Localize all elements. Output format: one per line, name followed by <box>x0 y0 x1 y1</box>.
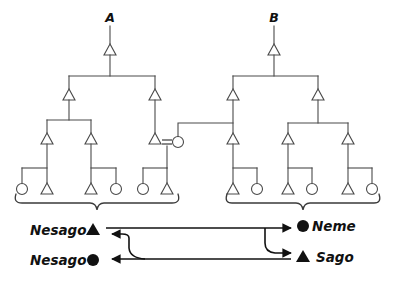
kinship-diagram-figure: A <box>0 0 396 281</box>
left-name-1-text: Nesago <box>30 222 87 238</box>
tree-b-gen2-triangle-right <box>312 89 324 100</box>
right-name-2-text: Sago <box>316 249 354 265</box>
tree-a-leaf-5-circle <box>138 184 149 195</box>
tree-a-gen3-triangle-left <box>41 133 53 144</box>
tree-b-leaf-6-circle <box>367 184 378 195</box>
tree-a: A <box>15 10 233 210</box>
tree-a-leaf-4-circle <box>111 184 122 195</box>
tree-a-label: A <box>104 10 115 25</box>
left-name-2-filled-circle-marker <box>87 254 99 266</box>
tree-b-gen3-triangle-3 <box>342 133 354 144</box>
tree-b-leaf-5-triangle <box>342 183 354 194</box>
tree-a-gen2-triangle-right <box>149 89 161 100</box>
tree-b-gen3-triangle-1 <box>227 133 239 144</box>
tree-b-leaf-4-circle <box>307 184 318 195</box>
tree-a-gen2-triangle-left <box>63 89 75 100</box>
exchange-arrow-curve-to-nesago-triangle <box>112 234 145 259</box>
marriage-b-side-link <box>178 123 233 137</box>
tree-b-gen2-triangle-left <box>227 89 239 100</box>
kinship-diagram-canvas: A <box>0 0 396 281</box>
tree-a-married-triangle <box>149 133 161 144</box>
tree-a-leaf-1-circle <box>17 184 28 195</box>
name-exchange-block: Nesago Nesago Neme Sago <box>30 218 356 268</box>
tree-b-leaf-3-triangle <box>282 183 294 194</box>
tree-b: B <box>226 10 380 210</box>
left-name-1-filled-triangle-marker <box>86 223 100 235</box>
exchange-arrow-neme-to-sago <box>265 228 291 253</box>
tree-a-brace <box>15 194 179 210</box>
tree-b-gen3-triangle-2 <box>282 133 294 144</box>
tree-a-leaf-3-triangle <box>85 183 97 194</box>
right-name-1-filled-circle-marker <box>297 220 309 232</box>
right-name-1-text: Neme <box>312 218 356 234</box>
tree-a-leaf-2-triangle <box>41 183 53 194</box>
tree-b-leaf-1-triangle <box>227 183 239 194</box>
tree-a-gen3-triangle-right <box>85 133 97 144</box>
tree-b-leaf-2-circle <box>252 184 263 195</box>
marriage-spouse-circle <box>173 137 184 148</box>
tree-b-brace <box>226 194 380 210</box>
left-name-2-text: Nesago <box>30 252 87 268</box>
tree-b-apex-triangle <box>268 44 280 55</box>
tree-b-label: B <box>269 10 279 25</box>
tree-a-apex-triangle <box>104 44 116 55</box>
right-name-2-filled-triangle-marker <box>296 250 310 262</box>
tree-a-leaf-6-triangle <box>161 183 173 194</box>
